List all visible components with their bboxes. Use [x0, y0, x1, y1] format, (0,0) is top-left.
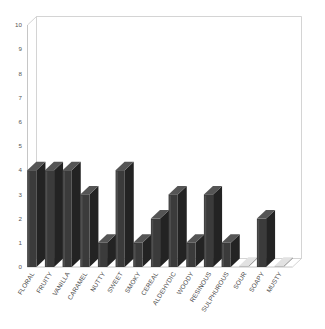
- bar-highlight: [28, 171, 30, 266]
- bar-highlight: [99, 244, 101, 266]
- bar-highlight: [116, 171, 118, 266]
- bar-side-face: [178, 186, 187, 267]
- bar-fruity: [45, 162, 63, 267]
- bar-floral: [27, 162, 45, 267]
- x-tick-label-soapy: SOAPY: [247, 270, 265, 294]
- bar-resinous: [204, 186, 222, 267]
- y-tick-label: 6: [19, 118, 23, 125]
- x-tick-label-nutty: NUTTY: [89, 270, 107, 293]
- bar-side-face: [213, 186, 222, 267]
- x-tick-label-fruity: FRUITY: [35, 270, 54, 295]
- bar-highlight: [63, 171, 65, 266]
- bar-highlight: [222, 244, 224, 266]
- y-tick-label: 4: [19, 166, 23, 173]
- x-tick-label-floral: FLORAL: [16, 270, 36, 296]
- bar-side-face: [160, 210, 169, 267]
- bar-side-face: [266, 210, 275, 267]
- bar-vanilla: [63, 162, 81, 267]
- x-tick-label-sweet: SWEET: [106, 270, 124, 294]
- y-tick-label: 1: [19, 239, 23, 246]
- bar-side-face: [54, 162, 63, 267]
- bar-cereal: [151, 210, 169, 267]
- bar-highlight: [81, 196, 83, 267]
- x-tick-label-smoky: SMOKY: [123, 270, 142, 294]
- bar-side-face: [89, 186, 98, 267]
- y-tick-label: 10: [15, 21, 22, 28]
- bar-front-face: [275, 266, 284, 267]
- bar-side-face: [36, 162, 45, 267]
- y-tick-label: 2: [19, 215, 23, 222]
- bar-soapy: [257, 210, 275, 267]
- y-tick-label: 5: [19, 142, 23, 149]
- bar-highlight: [46, 171, 48, 266]
- y-tick-label: 3: [19, 191, 23, 198]
- x-tick-label-sour: SOUR: [232, 270, 248, 290]
- bar-highlight: [258, 220, 260, 267]
- bar-aldehydic: [169, 186, 187, 267]
- y-tick-label: 0: [19, 263, 23, 270]
- bar-caramel: [80, 186, 98, 267]
- x-tick-label-musty: MUSTY: [265, 270, 283, 294]
- bar-highlight: [205, 196, 207, 267]
- y-tick-label: 8: [19, 70, 23, 77]
- bar-sweet: [116, 162, 134, 267]
- y-tick-label: 9: [19, 45, 23, 52]
- bar-highlight: [187, 244, 189, 266]
- y-tick-label: 7: [19, 94, 23, 101]
- bar-highlight: [152, 220, 154, 267]
- bar-side-face: [125, 162, 134, 267]
- bar-highlight: [134, 244, 136, 266]
- bar-chart: 012345678910FLORALFRUITYVANILLACARAMELNU…: [0, 0, 325, 329]
- depth-edge-top-left: [28, 17, 37, 26]
- bar-side-face: [72, 162, 81, 267]
- bar-highlight: [169, 196, 171, 267]
- chart-canvas: 012345678910FLORALFRUITYVANILLACARAMELNU…: [0, 0, 325, 329]
- bar-front-face: [239, 266, 248, 267]
